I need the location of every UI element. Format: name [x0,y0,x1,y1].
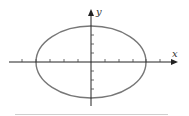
ellipse-diagram: x y [0,0,189,116]
x-axis: x [9,48,178,65]
x-arrow-icon [171,59,178,65]
y-axis: y [88,6,102,106]
y-arrow-icon [88,9,94,16]
y-axis-label: y [95,6,102,17]
x-axis-label: x [172,48,178,59]
bottom-divider [15,114,168,115]
